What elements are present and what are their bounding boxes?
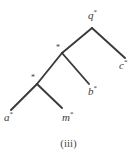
- phylogenetic-tree-figure: * * q* c* b* a* m* (iii): [0, 0, 137, 161]
- internal-node-1-star-marker: *: [56, 44, 60, 52]
- taxon-label-c: c*: [119, 59, 127, 71]
- branch-internal2-to-leaf-m: [37, 84, 62, 108]
- taxon-label-b: b*: [88, 85, 97, 97]
- branch-internal1-to-leaf-b: [62, 53, 89, 84]
- figure-caption: (iii): [0, 138, 137, 149]
- taxon-label-a: a*: [4, 111, 13, 123]
- taxon-letter-m: m: [62, 111, 70, 123]
- taxon-star-c: *: [124, 58, 128, 66]
- branch-root-to-leaf-c: [92, 28, 125, 58]
- taxon-label-m: m*: [62, 111, 73, 123]
- taxon-star-m: *: [70, 110, 74, 118]
- branch-root-to-internal1: [62, 28, 92, 53]
- taxon-label-q: q*: [88, 9, 97, 21]
- taxon-star-a: *: [10, 110, 14, 118]
- branch-internal2-to-leaf-a: [11, 84, 37, 110]
- branch-internal1-to-internal2: [37, 53, 62, 84]
- taxon-star-b: *: [94, 84, 98, 92]
- taxon-star-q: *: [94, 8, 98, 16]
- internal-node-2-star-marker: *: [31, 74, 35, 82]
